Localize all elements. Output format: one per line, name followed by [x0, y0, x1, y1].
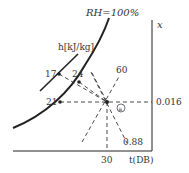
humidity-axis-label: x — [157, 19, 163, 30]
t-value-label: 30 — [101, 155, 113, 165]
rh-label: RH=100% — [85, 7, 139, 18]
psychrometric-chart: RH=100% h[kJ/kg] x 17 24 21 60 0.88 0.01… — [0, 0, 189, 173]
shf-label: 0.88 — [123, 137, 143, 147]
h24-dashed — [79, 82, 107, 102]
saturation-curve — [13, 18, 109, 128]
rh60-dashed — [82, 75, 120, 142]
temp-axis-label: t(DB) — [129, 155, 153, 165]
point-a — [105, 100, 109, 104]
point-24 — [77, 80, 81, 84]
x-value-label: 0.016 — [156, 97, 182, 107]
t21-label: 21 — [46, 97, 57, 107]
h24-label: 24 — [72, 69, 84, 79]
h17-label: 17 — [45, 69, 57, 79]
point-17 — [57, 72, 61, 76]
point-21 — [58, 100, 62, 104]
rh60-label: 60 — [116, 65, 128, 75]
point-a-label: a — [119, 105, 123, 112]
vertical-60-dashed — [92, 73, 107, 102]
enthalpy-label: h[kJ/kg] — [58, 42, 94, 52]
